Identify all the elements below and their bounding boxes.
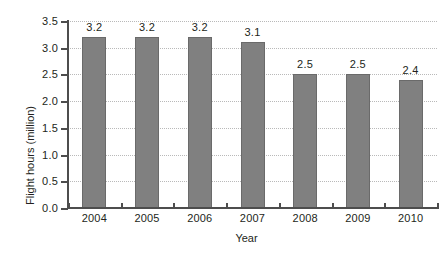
bar-value-label: 2.5 <box>338 59 378 70</box>
plot-area <box>68 21 437 208</box>
bar-chart: Flight hours (million) 0.00.51.01.52.02.… <box>0 0 445 258</box>
x-axis-tick <box>121 203 123 209</box>
y-axis-tick-label: 1.0 <box>0 150 58 161</box>
x-axis-tick <box>332 203 334 209</box>
bar <box>241 42 265 208</box>
bar-value-label: 2.5 <box>285 59 325 70</box>
y-axis-tick-label: 2.5 <box>0 69 58 80</box>
bar-value-label: 3.2 <box>180 22 220 33</box>
x-axis-tick-label: 2005 <box>122 212 172 225</box>
bar-value-label: 3.2 <box>74 22 114 33</box>
y-axis-tick <box>61 181 68 183</box>
y-axis-tick-label: 3.0 <box>0 43 58 54</box>
bar-value-label: 2.4 <box>391 65 431 76</box>
bar <box>82 37 106 208</box>
bar <box>135 37 159 208</box>
y-axis-tick <box>61 21 68 23</box>
x-axis-title: Year <box>0 232 445 245</box>
y-axis-tick <box>61 155 68 157</box>
y-axis-tick <box>61 208 68 210</box>
bar <box>399 80 423 208</box>
y-axis-tick <box>61 101 68 103</box>
bar <box>346 74 370 208</box>
x-axis-tick <box>226 203 228 209</box>
x-axis-tick-label: 2007 <box>228 212 278 225</box>
y-axis-tick-label: 0.0 <box>0 203 58 214</box>
bar <box>293 74 317 208</box>
x-axis-tick-label: 2004 <box>69 212 119 225</box>
x-axis-tick <box>384 203 386 209</box>
y-axis-tick-label: 0.5 <box>0 176 58 187</box>
x-axis-tick-label: 2010 <box>386 212 436 225</box>
y-axis-tick-label: 3.5 <box>0 16 58 27</box>
bar-value-label: 3.1 <box>233 27 273 38</box>
x-axis-tick <box>279 203 281 209</box>
x-axis-tick <box>437 203 439 209</box>
x-axis-tick <box>173 203 175 209</box>
y-axis-tick-label: 2.0 <box>0 96 58 107</box>
x-axis-tick <box>68 203 70 209</box>
x-axis-title-text: Year <box>187 232 257 245</box>
gridline <box>68 21 437 22</box>
y-axis-tick <box>61 48 68 50</box>
y-axis-tick <box>61 128 68 130</box>
bar-value-label: 3.2 <box>127 22 167 33</box>
x-axis-tick-label: 2008 <box>280 212 330 225</box>
x-axis-tick-label: 2006 <box>175 212 225 225</box>
x-axis-tick-label: 2009 <box>333 212 383 225</box>
bar <box>188 37 212 208</box>
y-axis-tick-label: 1.5 <box>0 123 58 134</box>
y-axis-tick <box>61 74 68 76</box>
